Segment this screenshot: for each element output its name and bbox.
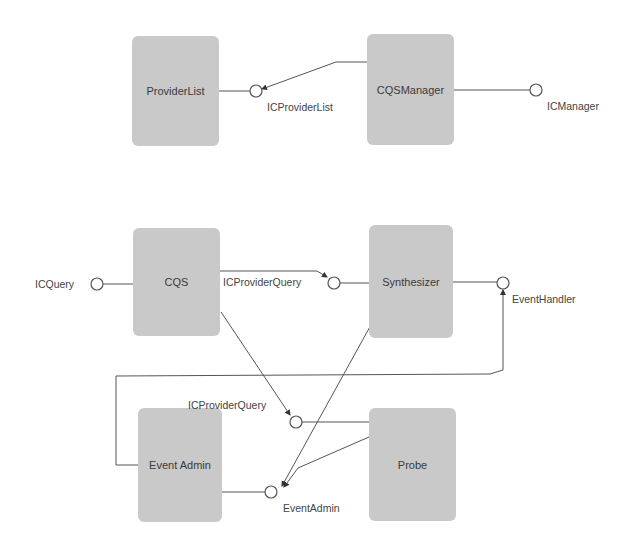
eventadmin-interface-icon bbox=[265, 486, 277, 498]
interface-label-icproviderquery-probe: ICProviderQuery bbox=[188, 399, 266, 411]
synth-requires-eventadmin bbox=[282, 323, 372, 486]
connectors-layer bbox=[0, 0, 634, 551]
component-label: Synthesizer bbox=[382, 276, 439, 288]
interface-label-eventhandler: EventHandler bbox=[512, 293, 576, 305]
icproviderquery-probe-interface-icon bbox=[290, 416, 302, 428]
interface-label-icmanager: ICManager bbox=[547, 100, 599, 112]
probe-requires-eventadmin bbox=[284, 437, 369, 487]
component-cqs[interactable]: CQS bbox=[133, 228, 220, 336]
component-label: ProviderList bbox=[146, 85, 204, 97]
component-label: CQSManager bbox=[377, 84, 444, 96]
icproviderquery-synth-interface-icon bbox=[328, 277, 340, 289]
component-cqsmanager[interactable]: CQSManager bbox=[367, 34, 454, 145]
cqsmanager-requires-icproviderlist bbox=[262, 62, 367, 89]
component-synthesizer[interactable]: Synthesizer bbox=[369, 225, 453, 338]
component-providerlist[interactable]: ProviderList bbox=[132, 36, 219, 146]
interface-label-icproviderlist: ICProviderList bbox=[267, 101, 333, 113]
icmanager-interface-icon bbox=[530, 84, 542, 96]
component-diagram: ProviderList CQSManager CQS Synthesizer … bbox=[0, 0, 634, 551]
interface-label-icproviderquery-synth: ICProviderQuery bbox=[223, 276, 301, 288]
component-label: CQS bbox=[165, 276, 189, 288]
component-label: Probe bbox=[398, 459, 427, 471]
eventhandler-interface-icon bbox=[497, 277, 509, 289]
icproviderlist-interface-icon bbox=[250, 85, 262, 97]
interface-label-icquery: ICQuery bbox=[35, 278, 74, 290]
icquery-interface-icon bbox=[91, 278, 103, 290]
component-event-admin[interactable]: Event Admin bbox=[138, 408, 222, 522]
component-label: Event Admin bbox=[149, 459, 211, 471]
component-probe[interactable]: Probe bbox=[369, 408, 456, 521]
interface-label-eventadmin: EventAdmin bbox=[283, 502, 340, 514]
